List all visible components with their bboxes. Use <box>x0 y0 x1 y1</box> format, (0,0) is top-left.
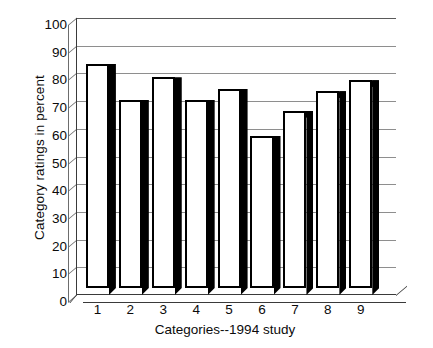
x-tick-label: 7 <box>280 302 310 317</box>
bar-side-face <box>372 80 379 295</box>
y-tick-label: 40 <box>22 184 67 198</box>
x-axis-title: Categories--1994 study <box>60 322 390 337</box>
bar-side-face <box>274 136 281 295</box>
bar-group[interactable] <box>218 89 248 295</box>
x-axis-right-wedge <box>396 288 408 302</box>
bar-group[interactable] <box>152 77 182 295</box>
x-tick-label: 5 <box>214 302 244 317</box>
bar-side-face <box>241 89 248 295</box>
bar-group[interactable] <box>119 100 149 295</box>
bar-front-face[interactable] <box>152 77 175 288</box>
bars-layer <box>76 18 396 295</box>
bar-front-face[interactable] <box>185 100 208 288</box>
bar-front-face[interactable] <box>250 136 273 288</box>
bar-front-face[interactable] <box>218 89 241 288</box>
bar-front-face[interactable] <box>86 64 109 288</box>
bar-front-face[interactable] <box>119 100 142 288</box>
bar-front-face[interactable] <box>349 80 372 288</box>
bar-side-face <box>208 100 215 295</box>
x-tick-label: 6 <box>247 302 277 317</box>
x-tick-label: 9 <box>346 302 376 317</box>
bar-chart-figure: Category ratings in percent 010203040506… <box>0 0 433 348</box>
bar-group[interactable] <box>349 80 379 295</box>
x-tick-label: 8 <box>313 302 343 317</box>
y-tick-label: 10 <box>22 268 67 282</box>
bar-group[interactable] <box>283 111 313 295</box>
bar-side-face <box>109 64 116 295</box>
x-tick-label: 3 <box>148 302 178 317</box>
bar-group[interactable] <box>86 64 116 295</box>
bar-front-face[interactable] <box>283 111 306 288</box>
x-tick-label: 2 <box>115 302 145 317</box>
y-tick-label: 80 <box>22 74 67 88</box>
bar-front-face[interactable] <box>316 91 339 288</box>
y-axis-tick-labels: 0102030405060708090100 <box>22 0 67 348</box>
right-wedge-line <box>396 286 407 296</box>
y-tick-label: 60 <box>22 129 67 143</box>
y-tick-label: 0 <box>22 295 67 309</box>
y-tick-label: 20 <box>22 240 67 254</box>
bar-group[interactable] <box>316 91 346 295</box>
y-tick-label: 90 <box>22 46 67 60</box>
bar-side-face <box>175 77 182 295</box>
y-tick-label: 30 <box>22 212 67 226</box>
bar-group[interactable] <box>250 136 280 295</box>
y-tick-label: 70 <box>22 101 67 115</box>
y-tick-label: 50 <box>22 157 67 171</box>
bar-group[interactable] <box>185 100 215 295</box>
bar-side-face <box>306 111 313 295</box>
y-tick-label: 100 <box>22 18 67 32</box>
x-axis-tick-labels: 123456789 <box>76 302 406 322</box>
x-tick-label: 1 <box>82 302 112 317</box>
x-tick-label: 4 <box>181 302 211 317</box>
bar-side-face <box>339 91 346 295</box>
bar-side-face <box>142 100 149 295</box>
